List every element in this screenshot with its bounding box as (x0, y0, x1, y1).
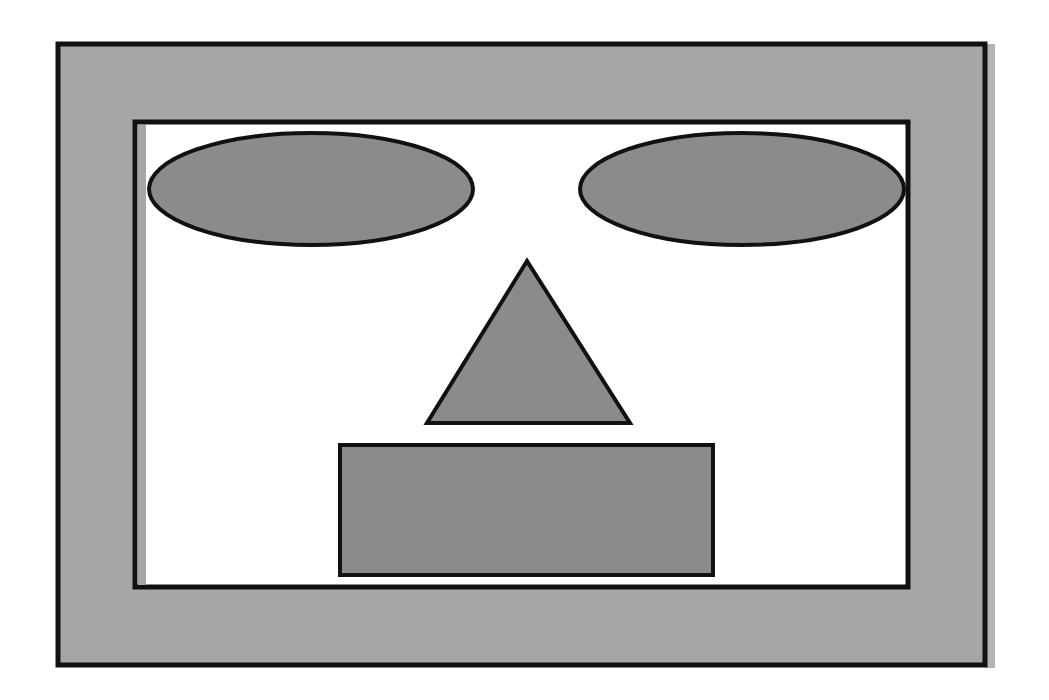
left-eye (149, 133, 473, 245)
mouth-rectangle (340, 445, 713, 575)
inner-left-strip (138, 125, 146, 585)
right-eye (580, 133, 904, 245)
face-diagram (0, 0, 1049, 700)
